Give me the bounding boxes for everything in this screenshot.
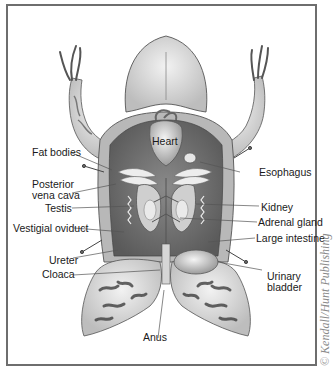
label-adrenal-gland: Adrenal gland xyxy=(258,216,323,228)
esophagus-organ xyxy=(184,153,196,163)
label-heart: Heart xyxy=(152,135,178,147)
label-posterior-vena-cava-line2: vena cava xyxy=(32,189,80,201)
label-fat-bodies: Fat bodies xyxy=(32,146,81,158)
label-kidney: Kidney xyxy=(261,201,293,213)
label-anus: Anus xyxy=(143,331,167,343)
cloaca-organ xyxy=(162,244,170,284)
label-urinary-bladder-line2: bladder xyxy=(267,281,302,293)
label-ureter: Ureter xyxy=(49,254,78,266)
label-testis: Testis xyxy=(45,202,72,214)
urinary-bladder-organ xyxy=(174,250,218,274)
label-esophagus: Esophagus xyxy=(259,166,312,178)
label-vestigial-oviduct: Vestigial oviduct xyxy=(13,222,88,234)
copyright-notice: © Kendall/Hunt Publishing xyxy=(318,234,333,366)
label-cloaca: Cloaca xyxy=(42,268,75,280)
label-large-intestine: Large intestine xyxy=(256,232,325,244)
